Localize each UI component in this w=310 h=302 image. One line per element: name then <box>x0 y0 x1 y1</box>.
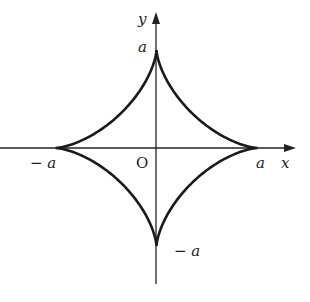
origin-label: O <box>136 156 148 171</box>
x-pos-tick-label: a <box>256 156 265 171</box>
y-axis-arrow-icon <box>152 12 160 24</box>
x-neg-tick-label: − a <box>30 156 56 171</box>
astroid-diagram: y a − a O a x − a <box>0 0 310 302</box>
y-pos-tick-label: a <box>138 40 147 55</box>
x-axis-label: x <box>281 156 289 171</box>
x-axis-arrow-icon <box>284 144 296 152</box>
diagram-graphics <box>0 0 310 302</box>
y-axis-label: y <box>138 12 146 27</box>
y-neg-tick-label: − a <box>174 244 200 259</box>
